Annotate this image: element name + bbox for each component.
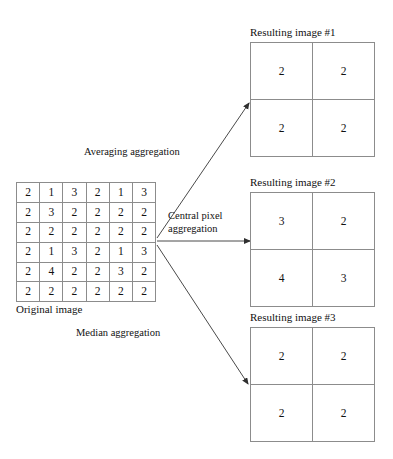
grid-cell: 2	[87, 282, 110, 302]
arrow-to-result-3	[157, 245, 248, 384]
grid-cell: 2	[313, 100, 375, 157]
grid-cell: 2	[251, 328, 313, 385]
grid-cell: 2	[133, 223, 156, 243]
grid-cell: 2	[251, 385, 313, 442]
grid-cell: 4	[251, 250, 313, 307]
grid-cell: 2	[63, 223, 86, 243]
resulting-image-2-grid: 3 2 4 3	[250, 192, 375, 307]
grid-cell: 1	[40, 183, 63, 203]
label-median-aggregation: Median aggregation	[76, 327, 160, 340]
grid-cell: 2	[110, 203, 133, 223]
grid-cell: 3	[63, 243, 86, 263]
grid-cell: 3	[63, 183, 86, 203]
grid-cell: 4	[40, 263, 63, 283]
grid-cell: 2	[40, 282, 63, 302]
grid-cell: 3	[40, 203, 63, 223]
grid-cell: 2	[87, 183, 110, 203]
grid-cell: 2	[133, 203, 156, 223]
grid-cell: 2	[133, 263, 156, 283]
grid-cell: 2	[251, 100, 313, 157]
grid-cell: 2	[17, 183, 40, 203]
grid-cell: 2	[313, 193, 375, 250]
grid-cell: 2	[63, 203, 86, 223]
grid-cell: 2	[87, 243, 110, 263]
grid-cell: 2	[63, 263, 86, 283]
label-central-pixel-aggregation: Central pixel aggregation	[168, 210, 223, 235]
grid-cell: 2	[17, 223, 40, 243]
resulting-image-1-grid: 2 2 2 2	[250, 42, 375, 157]
grid-cell: 2	[313, 43, 375, 100]
grid-cell: 2	[313, 328, 375, 385]
grid-cell: 2	[87, 263, 110, 283]
label-averaging-aggregation: Averaging aggregation	[84, 146, 180, 159]
grid-cell: 3	[313, 250, 375, 307]
grid-cell: 2	[87, 203, 110, 223]
original-image-grid: 2 1 3 2 1 3 2 3 2 2 2 2 2 2 2 2 2 2 2 1 …	[16, 182, 156, 302]
grid-cell: 2	[17, 263, 40, 283]
grid-cell: 3	[251, 193, 313, 250]
grid-cell: 2	[251, 43, 313, 100]
grid-cell: 2	[110, 282, 133, 302]
grid-cell: 2	[17, 282, 40, 302]
grid-cell: 1	[40, 243, 63, 263]
grid-cell: 2	[63, 282, 86, 302]
grid-cell: 3	[110, 263, 133, 283]
resulting-image-3-grid: 2 2 2 2	[250, 327, 375, 442]
grid-cell: 2	[17, 203, 40, 223]
grid-cell: 3	[133, 183, 156, 203]
grid-cell: 2	[110, 223, 133, 243]
grid-cell: 2	[40, 223, 63, 243]
grid-cell: 2	[133, 282, 156, 302]
resulting-image-3-title: Resulting image #3	[250, 311, 336, 323]
resulting-image-1-title: Resulting image #1	[250, 26, 336, 38]
grid-cell: 2	[87, 223, 110, 243]
grid-cell: 1	[110, 183, 133, 203]
grid-cell: 1	[110, 243, 133, 263]
grid-cell: 3	[133, 243, 156, 263]
grid-cell: 2	[17, 243, 40, 263]
grid-cell: 2	[313, 385, 375, 442]
resulting-image-2-title: Resulting image #2	[250, 176, 336, 188]
diagram-canvas: 2 1 3 2 1 3 2 3 2 2 2 2 2 2 2 2 2 2 2 1 …	[0, 0, 393, 459]
original-image-caption: Original image	[16, 303, 82, 315]
